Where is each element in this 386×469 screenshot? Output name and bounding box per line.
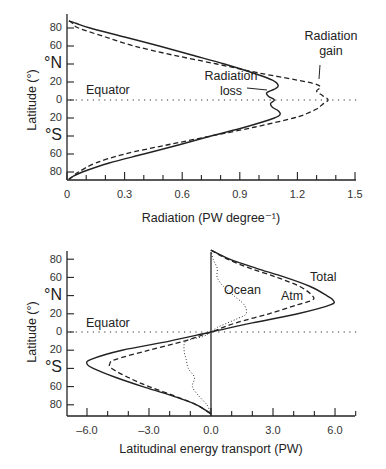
- radiation-gain-pointer: [319, 65, 320, 79]
- y-tick-label: 60: [50, 380, 62, 392]
- x-ticks: [87, 408, 356, 416]
- x-axis-label: Radiation (PW degree⁻¹): [142, 211, 280, 225]
- y-tick-label: 80: [50, 21, 62, 33]
- y-tick-label: 60: [50, 271, 62, 283]
- radiation-loss-curve: [69, 21, 280, 179]
- y-axis-label: Latitude (°): [25, 301, 39, 362]
- atm-label: Atm: [281, 289, 303, 303]
- y-tick-label: 80: [50, 253, 62, 265]
- equator-label: Equator: [86, 316, 130, 330]
- x-axis-label: Latitudinal energy transport (PW): [119, 442, 302, 456]
- y-tick-label: 0: [56, 93, 62, 105]
- total-label: Total: [310, 270, 336, 284]
- energy-transport-chart: –6.0 –3.0 0.0 3.0 6.0 80 60 °N 20 0 20 °…: [25, 250, 360, 456]
- y-tick-label: 80: [50, 165, 62, 177]
- y-tick-label: 60: [50, 147, 62, 159]
- x-tick-label: –6.0: [76, 424, 97, 436]
- y-axis-label: Latitude (°): [25, 69, 39, 130]
- radiation-gain-label-line1: Radiation: [305, 29, 358, 43]
- ocean-transport-curve: [184, 250, 247, 414]
- equator-label: Equator: [86, 83, 130, 97]
- x-ticks: [67, 172, 355, 180]
- y-tick-label: 80: [50, 398, 62, 410]
- radiation-gain-curve: [69, 21, 328, 179]
- radiation-chart: 0 0.3 0.6 0.9 1.2 1.5 80 60 °N 20 0 20 °…: [25, 14, 363, 225]
- hemisphere-south-label: °S: [45, 126, 62, 143]
- y-tick-label: 20: [50, 307, 62, 319]
- hemisphere-south-label: °S: [45, 358, 62, 375]
- y-tick-label: 20: [50, 343, 62, 355]
- y-tick-label: 20: [50, 111, 62, 123]
- radiation-loss-pointer: [247, 88, 267, 90]
- x-tick-label: 1.5: [347, 188, 362, 200]
- y-tick-label: 0: [56, 325, 62, 337]
- x-tick-label: 0: [64, 188, 70, 200]
- x-tick-label: –3.0: [138, 424, 159, 436]
- x-tick-label: 0.3: [117, 188, 132, 200]
- radiation-gain-label-line2: gain: [319, 44, 343, 58]
- hemisphere-north-label: °N: [44, 286, 62, 303]
- radiation-loss-label-line2: loss: [220, 84, 242, 98]
- y-tick-label: 20: [50, 75, 62, 87]
- x-tick-label: 1.2: [290, 188, 305, 200]
- figure: 0 0.3 0.6 0.9 1.2 1.5 80 60 °N 20 0 20 °…: [0, 0, 386, 469]
- x-tick-label: 0.6: [175, 188, 190, 200]
- x-tick-label: 3.0: [265, 424, 280, 436]
- radiation-loss-label-line1: Radiation: [205, 69, 258, 83]
- y-tick-label: 60: [50, 39, 62, 51]
- x-tick-label: 0.0: [203, 424, 218, 436]
- ocean-label: Ocean: [224, 283, 261, 297]
- x-tick-label: 0.9: [232, 188, 247, 200]
- x-tick-label: 6.0: [327, 424, 342, 436]
- hemisphere-north-label: °N: [44, 54, 62, 71]
